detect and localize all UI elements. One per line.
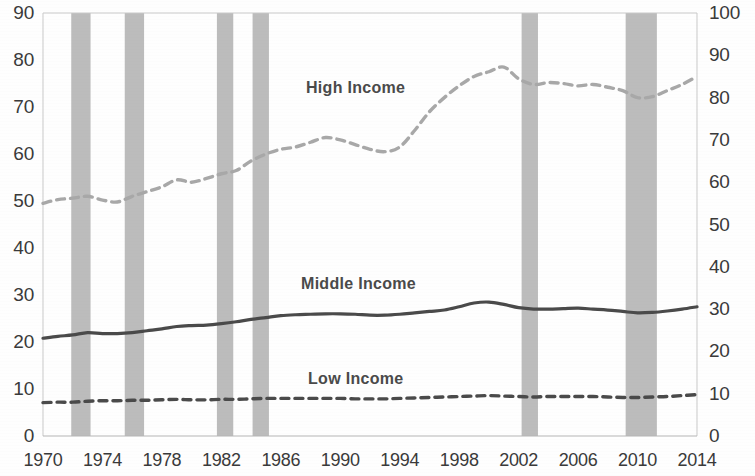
x-axis-tick-1970: 1970: [24, 450, 63, 471]
x-axis-tick-1994: 1994: [380, 450, 419, 471]
x-axis-tick-1986: 1986: [261, 450, 300, 471]
recession-band-1: [125, 13, 144, 436]
right-axis-tick-70: 70: [709, 130, 730, 149]
income-line-chart: 0102030405060708090 01020304050607080901…: [0, 0, 755, 476]
left-axis-tick-20: 20: [0, 332, 34, 351]
series-label-high-income: High Income: [306, 79, 405, 97]
right-axis-tick-0: 0: [709, 426, 719, 445]
x-axis-tick-1974: 1974: [83, 450, 122, 471]
left-axis-tick-50: 50: [0, 191, 34, 210]
x-axis-tick-1982: 1982: [202, 450, 241, 471]
recession-band-0: [71, 13, 90, 436]
right-axis-tick-20: 20: [709, 341, 730, 360]
x-axis-tick-2014: 2014: [678, 450, 717, 471]
x-axis-tick-2010: 2010: [618, 450, 657, 471]
left-axis-tick-90: 90: [0, 3, 34, 22]
chart-plot-area: [0, 0, 755, 476]
right-axis-tick-100: 100: [709, 3, 740, 22]
x-axis-tick-1998: 1998: [440, 450, 479, 471]
right-axis-tick-80: 80: [709, 88, 730, 107]
right-axis-tick-40: 40: [709, 257, 730, 276]
left-axis-tick-80: 80: [0, 50, 34, 69]
left-axis-tick-30: 30: [0, 285, 34, 304]
right-axis-tick-30: 30: [709, 299, 730, 318]
left-axis-tick-10: 10: [0, 379, 34, 398]
series-label-middle-income: Middle Income: [301, 275, 416, 293]
right-axis-tick-10: 10: [709, 384, 730, 403]
x-axis-tick-1978: 1978: [142, 450, 181, 471]
recession-band-2: [217, 13, 233, 436]
recession-band-4: [522, 13, 538, 436]
left-axis-tick-0: 0: [0, 426, 34, 445]
x-axis-tick-1990: 1990: [321, 450, 360, 471]
recession-band-5: [626, 13, 657, 436]
left-axis-tick-40: 40: [0, 238, 34, 257]
x-axis-tick-2006: 2006: [559, 450, 598, 471]
x-axis-tick-2002: 2002: [499, 450, 538, 471]
left-axis-tick-60: 60: [0, 144, 34, 163]
right-axis-tick-90: 90: [709, 45, 730, 64]
recession-band-3: [253, 13, 269, 436]
series-label-low-income: Low Income: [308, 370, 403, 388]
right-axis-tick-60: 60: [709, 172, 730, 191]
left-axis-tick-70: 70: [0, 97, 34, 116]
right-axis-tick-50: 50: [709, 215, 730, 234]
